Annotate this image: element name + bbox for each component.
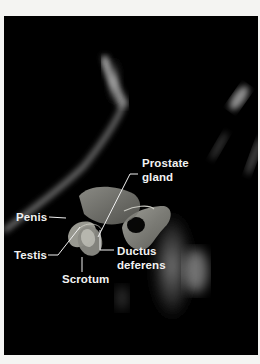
- label-ductus-line1: Ductus: [117, 245, 166, 257]
- label-ductus-deferens: Ductus deferens: [117, 245, 166, 271]
- label-penis: Penis: [16, 211, 47, 223]
- label-ductus-line2: deferens: [117, 259, 166, 271]
- label-prostate-line2: gland: [142, 171, 189, 183]
- label-scrotum: Scrotum: [62, 273, 109, 285]
- male-reproductive-anatomy-illustration: [4, 16, 258, 355]
- label-testis: Testis: [14, 249, 47, 261]
- label-prostate-line1: Prostate: [142, 157, 189, 169]
- anatomy-figure: Prostate gland Penis Testis Scrotum Duct…: [4, 16, 258, 355]
- label-prostate-gland: Prostate gland: [142, 157, 189, 183]
